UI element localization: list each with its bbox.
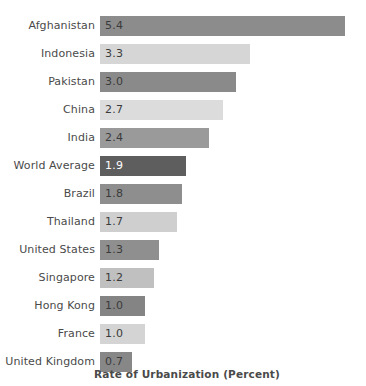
bar-value-label: 1.3 [100, 244, 123, 256]
bar: 1.7 [100, 212, 177, 232]
urbanization-bar-chart: Afghanistan5.4Indonesia3.3Pakistan3.0Chi… [0, 0, 366, 386]
bar-track: 1.9 [100, 152, 366, 180]
category-label: United Kingdom [0, 356, 95, 368]
bar: 1.3 [100, 240, 159, 260]
bar-value-label: 1.0 [100, 328, 123, 340]
category-label: Indonesia [0, 48, 95, 60]
bar-row: Afghanistan5.4 [0, 12, 366, 40]
bar-value-label: 0.7 [100, 356, 123, 368]
bar: 1.2 [100, 268, 154, 288]
bar: 1.9 [100, 156, 186, 176]
bar: 2.4 [100, 128, 209, 148]
bar-track: 3.0 [100, 68, 366, 96]
bar-value-label: 2.7 [100, 104, 123, 116]
bar-row: Thailand1.7 [0, 208, 366, 236]
bar-track: 5.4 [100, 12, 366, 40]
bar-row: France1.0 [0, 320, 366, 348]
bar-track: 1.8 [100, 180, 366, 208]
bar-row: Singapore1.2 [0, 264, 366, 292]
bar-row: United States1.3 [0, 236, 366, 264]
bar-row: Hong Kong1.0 [0, 292, 366, 320]
bar-value-label: 1.8 [100, 188, 123, 200]
bar-track: 1.0 [100, 292, 366, 320]
category-label: United States [0, 244, 95, 256]
bar: 3.0 [100, 72, 236, 92]
bar: 5.4 [100, 16, 345, 36]
bar-track: 2.4 [100, 124, 366, 152]
category-label: Singapore [0, 272, 95, 284]
bar-row: Brazil1.8 [0, 180, 366, 208]
bar-value-label: 1.7 [100, 216, 123, 228]
bar-track: 1.3 [100, 236, 366, 264]
x-axis-title: Rate of Urbanization (Percent) [0, 368, 366, 380]
bar: 1.8 [100, 184, 182, 204]
category-label: France [0, 328, 95, 340]
category-label: World Average [0, 160, 95, 172]
bar-track: 3.3 [100, 40, 366, 68]
bar-value-label: 1.2 [100, 272, 123, 284]
bar-value-label: 2.4 [100, 132, 123, 144]
category-label: Brazil [0, 188, 95, 200]
bar-row: Indonesia3.3 [0, 40, 366, 68]
category-label: Thailand [0, 216, 95, 228]
category-label: Pakistan [0, 76, 95, 88]
bar-value-label: 3.0 [100, 76, 123, 88]
bar-value-label: 1.0 [100, 300, 123, 312]
category-label: India [0, 132, 95, 144]
bar-track: 1.7 [100, 208, 366, 236]
bar-value-label: 5.4 [100, 20, 123, 32]
bar-track: 1.0 [100, 320, 366, 348]
bar-track: 2.7 [100, 96, 366, 124]
category-label: Hong Kong [0, 300, 95, 312]
bar-track: 1.2 [100, 264, 366, 292]
bar-row: Pakistan3.0 [0, 68, 366, 96]
bar-row: China2.7 [0, 96, 366, 124]
bar-value-label: 1.9 [100, 160, 123, 172]
bar: 3.3 [100, 44, 250, 64]
category-label: China [0, 104, 95, 116]
bar: 2.7 [100, 100, 223, 120]
bar-value-label: 3.3 [100, 48, 123, 60]
bar-row: India2.4 [0, 124, 366, 152]
bar: 1.0 [100, 324, 145, 344]
bar: 1.0 [100, 296, 145, 316]
bar-row: World Average1.9 [0, 152, 366, 180]
bar-rows-container: Afghanistan5.4Indonesia3.3Pakistan3.0Chi… [0, 12, 366, 376]
category-label: Afghanistan [0, 20, 95, 32]
